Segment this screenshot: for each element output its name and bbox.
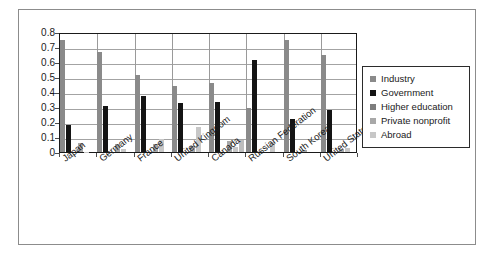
y-tick-label: 0.3 <box>30 103 55 113</box>
bar <box>135 75 140 152</box>
x-axis-labels: JapanGermanyFranceUnited KingdomCanadaRu… <box>59 155 379 215</box>
legend-item: Private nonprofit <box>367 114 464 127</box>
bar <box>209 83 214 152</box>
legend-swatch-icon <box>370 76 376 82</box>
legend-swatch-icon <box>370 104 376 110</box>
legend-label: Private nonprofit <box>381 115 450 126</box>
y-tick-mark <box>55 48 59 49</box>
y-tick-mark <box>55 63 59 64</box>
y-tick-mark <box>55 78 59 79</box>
bar <box>252 60 257 152</box>
y-tick-mark <box>55 108 59 109</box>
legend-swatch-icon <box>370 118 376 124</box>
legend-item: Industry <box>367 72 464 85</box>
legend-swatch-icon <box>370 90 376 96</box>
y-tick-label: 0.5 <box>30 73 55 83</box>
y-tick-label: 0.7 <box>30 43 55 53</box>
bar <box>141 96 146 152</box>
bar-chart-figure: 0.80.70.60.50.40.30.20.10 JapanGermanyFr… <box>0 0 494 260</box>
y-tick-label: 0.1 <box>30 133 55 143</box>
legend-item: Government <box>367 86 464 99</box>
legend-item: Abroad <box>367 128 464 141</box>
legend-label: Government <box>381 87 433 98</box>
y-tick-label: 0.6 <box>30 58 55 68</box>
bar <box>178 103 183 152</box>
y-tick-mark <box>55 123 59 124</box>
y-tick-label: 0.4 <box>30 88 55 98</box>
bar <box>172 86 177 152</box>
y-tick-mark <box>55 93 59 94</box>
y-axis: 0.80.70.60.50.40.30.20.10 <box>30 28 55 153</box>
bar <box>121 149 126 152</box>
legend-swatch-icon <box>370 132 376 138</box>
y-tick-mark <box>55 33 59 34</box>
y-tick-mark <box>55 138 59 139</box>
legend-label: Industry <box>381 73 415 84</box>
legend-label: Higher education <box>381 101 453 112</box>
chart-legend: IndustryGovernmentHigher educationPrivat… <box>362 66 470 148</box>
bar <box>246 108 251 152</box>
y-tick-label: 0 <box>30 148 55 158</box>
legend-label: Abroad <box>381 129 412 140</box>
bar-group <box>60 34 97 152</box>
bar <box>60 40 65 153</box>
bar-group <box>135 34 172 152</box>
y-tick-label: 0.8 <box>30 28 55 38</box>
legend-item: Higher education <box>367 100 464 113</box>
y-tick-mark <box>55 153 59 154</box>
y-tick-label: 0.2 <box>30 118 55 128</box>
bar <box>97 52 102 153</box>
